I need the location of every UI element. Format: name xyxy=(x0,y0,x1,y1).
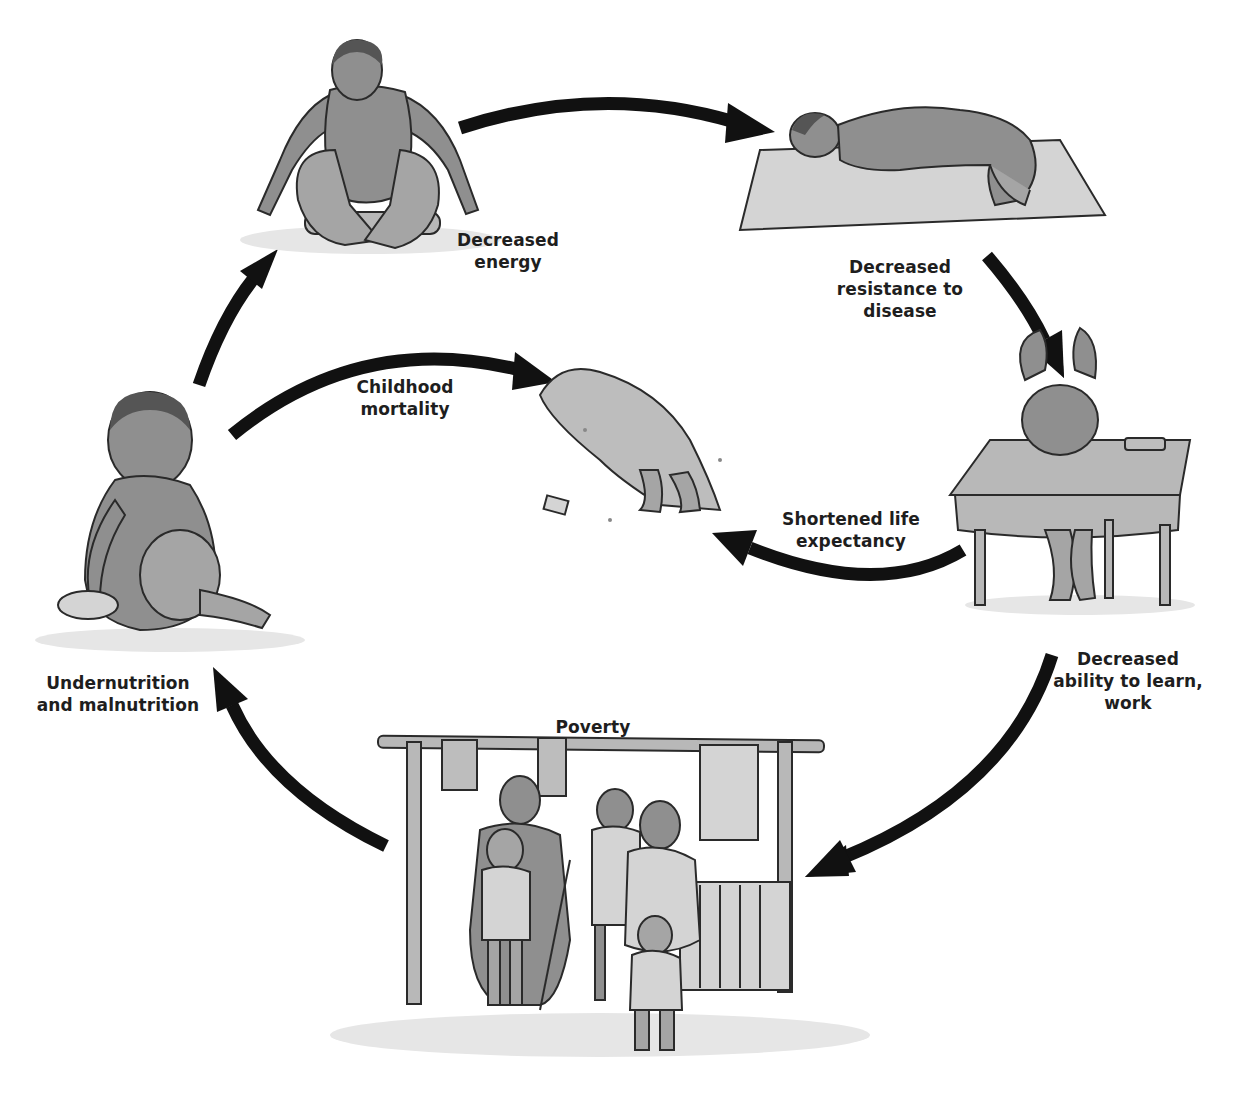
label-decreased-ability-line2: ability to learn, xyxy=(1048,670,1208,692)
arrow-undernutrition-to-energy xyxy=(199,249,278,385)
illustration-lying-child xyxy=(740,107,1105,230)
label-decreased-resistance-line2: resistance to xyxy=(830,278,970,300)
label-decreased-energy-line1: Decreased xyxy=(448,229,568,251)
arrow-poverty-to-undernutrition xyxy=(213,667,386,846)
label-decreased-resistance-line1: Decreased xyxy=(830,256,970,278)
label-childhood-mortality: Childhood mortality xyxy=(350,376,460,420)
illustration-child-at-desk xyxy=(950,328,1195,615)
arrow-energy-to-resistance xyxy=(460,103,775,143)
cycle-diagram: Decreased energy Decreased resistance to… xyxy=(0,0,1235,1100)
label-decreased-resistance: Decreased resistance to disease xyxy=(830,256,970,322)
label-shortened-life-expectancy-line2: expectancy xyxy=(776,530,926,552)
label-childhood-mortality-line2: mortality xyxy=(350,398,460,420)
label-undernutrition-line1: Undernutrition xyxy=(30,672,206,694)
illustration-covered-body xyxy=(540,369,722,522)
label-shortened-life-expectancy: Shortened life expectancy xyxy=(776,508,926,552)
illustration-family-poverty xyxy=(330,736,870,1057)
label-childhood-mortality-line1: Childhood xyxy=(350,376,460,398)
illustration-squatting-child xyxy=(240,40,500,254)
label-decreased-energy: Decreased energy xyxy=(448,229,568,273)
label-decreased-ability-to-learn: Decreased ability to learn, work xyxy=(1048,648,1208,714)
arrow-learning-to-poverty xyxy=(805,655,1052,877)
label-decreased-ability-line1: Decreased xyxy=(1048,648,1208,670)
label-undernutrition: Undernutrition and malnutrition xyxy=(30,672,206,716)
label-decreased-resistance-line3: disease xyxy=(830,300,970,322)
label-shortened-life-expectancy-line1: Shortened life xyxy=(776,508,926,530)
illustration-child-with-bowl xyxy=(35,392,305,652)
label-decreased-ability-line3: work xyxy=(1048,692,1208,714)
label-undernutrition-line2: and malnutrition xyxy=(30,694,206,716)
label-decreased-energy-line2: energy xyxy=(448,251,568,273)
label-poverty: Poverty xyxy=(548,716,638,738)
label-poverty-line1: Poverty xyxy=(548,716,638,738)
